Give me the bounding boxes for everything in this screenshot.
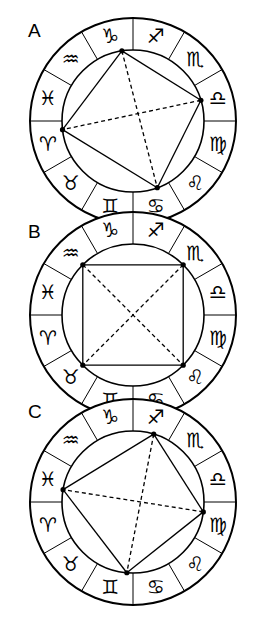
zodiac-glyph-sagittarius: ♐	[147, 405, 165, 429]
zodiac-glyph-libra: ♎	[209, 467, 227, 491]
point-aquarius	[80, 262, 85, 267]
wheel-inner-circle	[62, 431, 204, 573]
point-pisces	[60, 487, 65, 492]
zodiac-glyph-scorpio: ♏	[186, 47, 204, 71]
zodiac-glyph-capricorn: ♑	[101, 405, 119, 429]
point-capricorn	[119, 48, 124, 53]
zodiac-glyph-virgo: ♍	[209, 513, 227, 537]
point-scorpio	[181, 262, 186, 267]
wheels-group: ♐♏♎♍♌♋♊♉♈♓♒♑A♐♏♎♍♌♋♊♉♈♓♒♑B♐♏♎♍♌♋♊♉♈♓♒♑C	[28, 18, 236, 605]
zodiac-glyph-aquarius: ♒	[62, 47, 80, 71]
zodiac-glyph-leo: ♌	[186, 171, 204, 195]
zodiac-glyph-sagittarius: ♐	[147, 218, 165, 242]
zodiac-glyph-taurus: ♉	[62, 365, 80, 389]
zodiac-glyph-scorpio: ♏	[186, 428, 204, 452]
zodiac-glyph-virgo: ♍	[209, 326, 227, 350]
zodiac-glyph-scorpio: ♏	[186, 241, 204, 265]
wheel-B: ♐♏♎♍♌♋♊♉♈♓♒♑	[30, 212, 236, 418]
zodiac-glyph-pisces: ♓	[39, 280, 57, 304]
zodiac-glyph-aries: ♈	[39, 132, 57, 156]
zodiac-glyph-pisces: ♓	[39, 467, 57, 491]
wheel-C: ♐♏♎♍♌♋♊♉♈♓♒♑	[30, 399, 236, 605]
zodiac-glyph-taurus: ♉	[62, 552, 80, 576]
astrology-aspect-pattern-figure: ♐♏♎♍♌♋♊♉♈♓♒♑A♐♏♎♍♌♋♊♉♈♓♒♑B♐♏♎♍♌♋♊♉♈♓♒♑C	[0, 0, 262, 621]
wheel-label-C: C	[28, 401, 42, 422]
zodiac-glyph-libra: ♎	[209, 280, 227, 304]
zodiac-glyph-aries: ♈	[39, 326, 57, 350]
point-sagittarius	[151, 432, 156, 437]
zodiac-glyph-cancer: ♋	[147, 575, 165, 599]
zodiac-glyph-leo: ♌	[186, 365, 204, 389]
zodiac-glyph-libra: ♎	[209, 86, 227, 110]
wheel-A: ♐♏♎♍♌♋♊♉♈♓♒♑	[30, 18, 236, 224]
wheel-label-A: A	[28, 20, 41, 41]
zodiac-glyph-aquarius: ♒	[62, 241, 80, 265]
zodiac-glyph-aquarius: ♒	[62, 428, 80, 452]
point-gemini	[124, 570, 129, 575]
zodiac-glyph-leo: ♌	[186, 552, 204, 576]
point-libra	[198, 98, 203, 103]
zodiac-glyph-sagittarius: ♐	[147, 24, 165, 48]
zodiac-glyph-capricorn: ♑	[101, 218, 119, 242]
zodiac-glyph-aries: ♈	[39, 513, 57, 537]
wheel-inner-circle	[62, 50, 204, 192]
zodiac-glyph-taurus: ♉	[62, 171, 80, 195]
zodiac-glyph-pisces: ♓	[39, 86, 57, 110]
point-gemini	[155, 185, 160, 190]
zodiac-glyph-capricorn: ♑	[101, 24, 119, 48]
point-virgo	[201, 509, 206, 514]
point-aries	[60, 127, 65, 132]
point-leo	[181, 363, 186, 368]
zodiac-glyph-virgo: ♍	[209, 132, 227, 156]
zodiac-glyph-gemini: ♊	[101, 575, 119, 599]
point-taurus	[80, 363, 85, 368]
wheel-label-B: B	[28, 221, 41, 242]
